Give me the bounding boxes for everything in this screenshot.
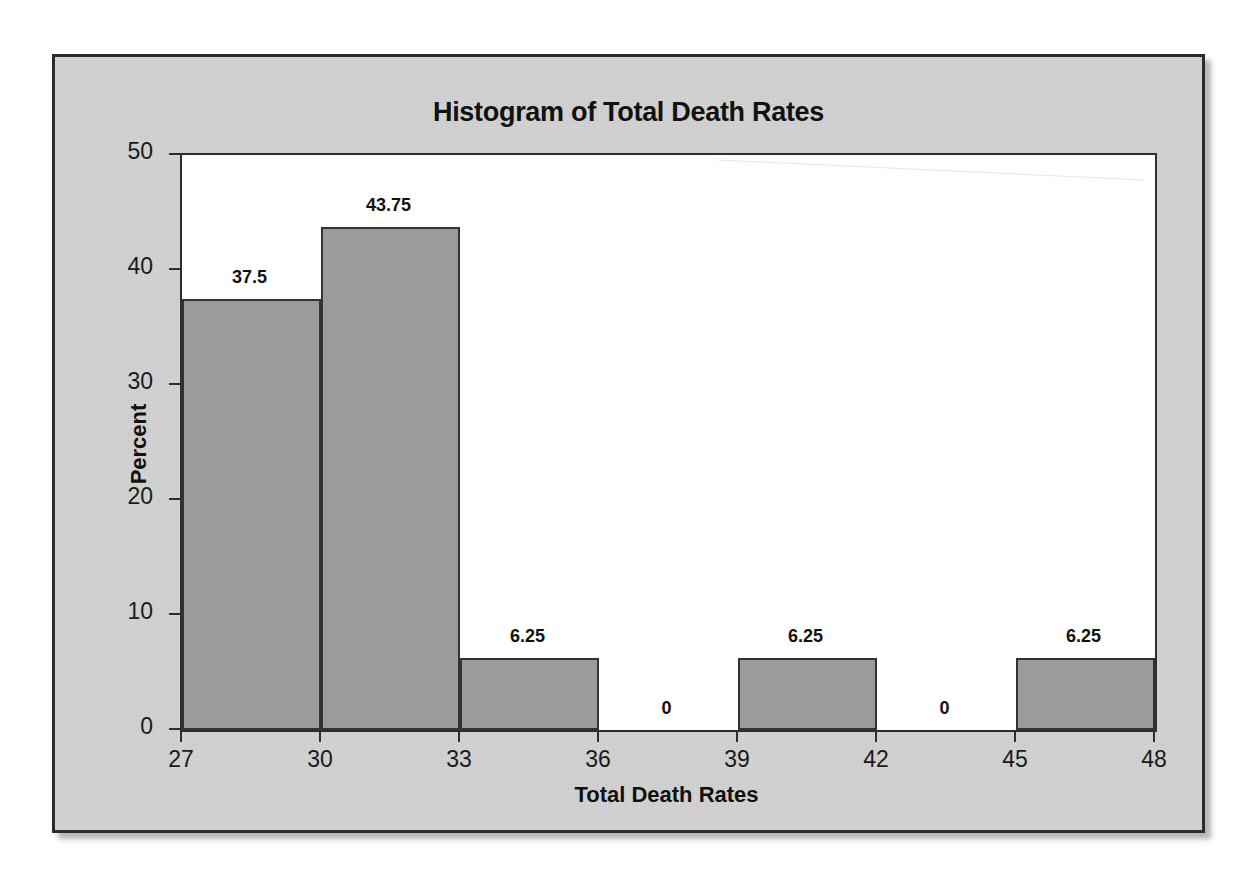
x-tick-mark: [875, 730, 877, 742]
y-tick-label: 30: [127, 368, 153, 395]
bar-value-label: 0: [661, 698, 671, 719]
x-tick-label: 33: [446, 746, 472, 773]
x-tick-label: 36: [585, 746, 611, 773]
x-tick-label: 45: [1002, 746, 1028, 773]
bar-value-label: 6.25: [510, 626, 545, 647]
y-tick-label: 10: [127, 598, 153, 625]
x-tick-mark: [1014, 730, 1016, 742]
y-tick-label: 20: [127, 483, 153, 510]
y-tick-mark: [169, 383, 180, 385]
bar-value-label: 43.75: [366, 195, 411, 216]
y-axis-title: Percent: [126, 403, 152, 484]
bar-value-label: 6.25: [1066, 626, 1101, 647]
x-tick-mark: [736, 730, 738, 742]
x-tick-label: 42: [863, 746, 889, 773]
histogram-bar: [182, 299, 321, 730]
y-tick-mark: [169, 268, 180, 270]
x-tick-mark: [597, 730, 599, 742]
x-tick-mark: [180, 730, 182, 742]
y-tick-label: 0: [140, 713, 153, 740]
bar-value-label: 0: [939, 698, 949, 719]
x-tick-mark: [458, 730, 460, 742]
y-tick-mark: [169, 728, 180, 730]
x-tick-label: 30: [307, 746, 333, 773]
x-tick-label: 39: [724, 746, 750, 773]
bar-value-label: 37.5: [232, 267, 267, 288]
x-tick-mark: [1153, 730, 1155, 742]
x-tick-label: 48: [1141, 746, 1167, 773]
histogram-bar: [738, 658, 877, 730]
chart-title: Histogram of Total Death Rates: [55, 97, 1202, 128]
x-tick-label: 27: [168, 746, 194, 773]
bars-layer: [182, 155, 1155, 730]
y-tick-mark: [169, 498, 180, 500]
y-tick-mark: [169, 153, 180, 155]
x-tick-mark: [319, 730, 321, 742]
histogram-bar: [321, 227, 460, 730]
y-tick-label: 50: [127, 138, 153, 165]
plot-area: [180, 153, 1157, 732]
y-tick-mark: [169, 613, 180, 615]
figure-plate: Histogram of Total Death Rates Percent T…: [52, 54, 1205, 833]
bar-value-label: 6.25: [788, 626, 823, 647]
x-axis-title: Total Death Rates: [180, 782, 1153, 808]
y-tick-label: 40: [127, 253, 153, 280]
histogram-bar: [460, 658, 599, 730]
histogram-bar: [1016, 658, 1155, 730]
